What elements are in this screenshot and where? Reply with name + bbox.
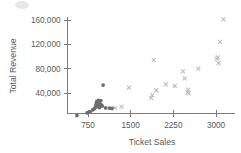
x-tick-label: 2250	[164, 121, 183, 130]
data-point	[186, 88, 190, 92]
data-point	[120, 105, 124, 109]
x-tick-label: 1500	[122, 121, 141, 130]
y-axis-title: Total Revenue	[8, 38, 18, 93]
corner-artifact	[15, 1, 29, 9]
data-point	[218, 40, 222, 44]
data-point	[221, 17, 225, 21]
data-point	[99, 99, 103, 103]
data-point	[101, 83, 105, 87]
data-point	[154, 88, 158, 92]
data-point	[173, 84, 177, 88]
y-tick-label: 120,000	[31, 40, 61, 49]
data-point	[181, 69, 185, 73]
axes	[68, 17, 236, 114]
data-point	[104, 106, 108, 110]
data-point	[164, 82, 168, 86]
y-tick-label: 80,000	[35, 65, 60, 74]
x-axis-title: Ticket Sales	[129, 137, 176, 147]
y-tick-label: 160,000	[31, 16, 61, 25]
data-points-layer	[75, 17, 225, 117]
data-point	[183, 76, 187, 80]
data-point	[152, 58, 156, 62]
data-point	[127, 86, 131, 90]
scatter-chart: 40,00080,000120,000160,000 7501500225030…	[0, 0, 241, 153]
data-point	[75, 114, 79, 118]
x-tick-label: 3000	[207, 121, 226, 130]
series-x	[113, 17, 225, 110]
y-axis-tick-labels: 40,00080,000120,000160,000	[31, 16, 61, 98]
x-axis-tick-labels: 750150022503000	[81, 121, 225, 130]
data-point	[217, 61, 221, 65]
series-circle	[75, 83, 114, 117]
chart-canvas: 40,00080,000120,000160,000 7501500225030…	[0, 0, 241, 153]
data-point	[100, 104, 104, 108]
y-tick-label: 40,000	[35, 89, 60, 98]
data-point	[196, 67, 200, 71]
x-tick-label: 750	[81, 121, 95, 130]
